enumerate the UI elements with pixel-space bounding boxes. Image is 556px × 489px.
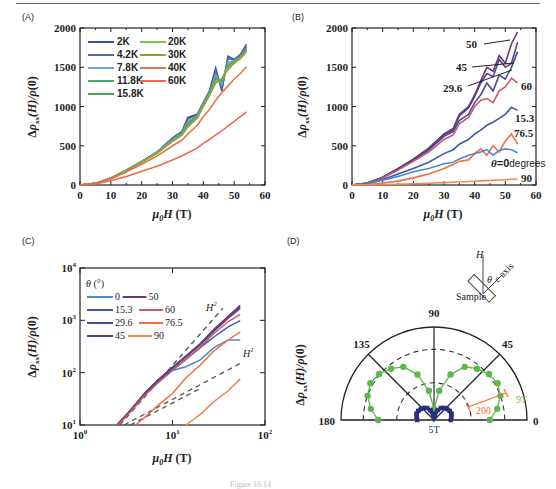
series-line-30K [80, 52, 247, 185]
series-line-15-8K [80, 50, 247, 185]
angle-label: 90 [429, 307, 441, 319]
legend-entry: 4.2K [117, 49, 139, 60]
x-tick-label: 40 [469, 189, 481, 201]
legend-entry: 30K [168, 49, 187, 60]
legend-entry: 60K [168, 75, 187, 86]
x-tick-label: 10 [377, 189, 389, 201]
svg-text:c axis: c axis [492, 260, 516, 284]
legend-entry: 11.8K [117, 75, 144, 86]
legend-entry: 2K [117, 36, 131, 47]
svg-text:50: 50 [466, 38, 478, 50]
plot-frame [80, 268, 265, 425]
legend-entry: 29.6 [115, 317, 133, 328]
y-tick-label: 1000 [326, 101, 349, 113]
y-tick-label: 1500 [54, 61, 77, 73]
panel-a: (A) 01020304050600500100015002000Δρxx(H)… [0, 0, 278, 225]
legend-entry: 45 [115, 330, 125, 341]
legend-entry: 40K [168, 62, 187, 73]
h2-annotation: H2 [205, 300, 217, 313]
series-label-9t: 9T [516, 394, 527, 405]
legend-entry: 0 [115, 291, 120, 302]
svg-text:102: 102 [62, 366, 77, 379]
angle-label: 180 [319, 415, 336, 427]
svg-text:104: 104 [62, 261, 77, 274]
x-tick-label: 20 [408, 189, 420, 201]
x-tick-label: 30 [439, 189, 451, 201]
svg-text:102: 102 [258, 428, 273, 441]
y-tick-label: 2000 [54, 22, 77, 34]
svg-text:60: 60 [521, 80, 533, 92]
svg-text:76.5: 76.5 [514, 127, 534, 139]
x-axis-label: μ0H (T) [151, 207, 191, 223]
legend-entry: 7.8K [117, 62, 139, 73]
y-tick-label: 500 [332, 140, 349, 152]
chart-d: 901354518009T5T200Δρxx(H)/ρ(0)Hθc axisSa… [278, 225, 556, 470]
legend-entry: 50 [149, 291, 159, 302]
y-tick-label: 500 [60, 140, 77, 152]
svg-text:101: 101 [165, 428, 180, 441]
x-axis-label: μ0H (T) [151, 451, 191, 467]
svg-text:Sample: Sample [456, 291, 487, 302]
y-tick-label: 2000 [326, 22, 349, 34]
y-tick-label: 0 [343, 179, 349, 191]
legend-entry: 15.3 [115, 304, 133, 315]
svg-text:29.6: 29.6 [443, 82, 463, 94]
h1-annotation: H1 [242, 346, 254, 359]
sample-orientation-inset: Hθc axisSample [456, 249, 516, 302]
series-line-0 [117, 340, 240, 425]
svg-text:100: 100 [73, 428, 88, 441]
panel-b: (B) 01020304050600500100015002000Δρxx(H)… [278, 0, 556, 225]
svg-text:H: H [475, 249, 484, 260]
legend-entry: 60 [165, 304, 175, 315]
figure-caption: Figure 16.14 [230, 480, 271, 489]
legend-entry: 76.5 [165, 317, 183, 328]
y-axis-label: Δρxx(H)/ρ(0) [25, 316, 41, 378]
series-line-90 [186, 379, 240, 425]
chart-b: 01020304050600500100015002000Δρxx(H)/ρ(0… [278, 0, 556, 225]
y-axis-label: Δρxx(H)/ρ(0) [293, 344, 309, 406]
svg-text:15.3: 15.3 [515, 112, 535, 124]
series-line-20K [80, 51, 247, 185]
panel-d: (D) 901354518009T5T200Δρxx(H)/ρ(0)Hθc ax… [278, 225, 556, 470]
y-tick-label: 0 [71, 179, 77, 191]
x-tick-label: 0 [77, 189, 83, 201]
x-tick-label: 50 [500, 189, 512, 201]
x-tick-label: 60 [531, 189, 543, 201]
angle-label: 0 [533, 415, 539, 427]
angle-label: 45 [502, 338, 513, 350]
y-axis-label: Δρxx(H)/ρ(0) [25, 76, 41, 138]
y-axis-label: Δρxx(H)/ρ(0) [295, 76, 311, 138]
reference-line [130, 388, 200, 425]
chart-a: 01020304050600500100015002000Δρxx(H)/ρ(0… [0, 0, 278, 225]
svg-text:90: 90 [521, 172, 533, 184]
svg-text:45: 45 [456, 61, 468, 73]
legend-entry: 90 [154, 330, 164, 341]
y-tick-label: 1000 [54, 101, 77, 113]
polar-spoke [368, 354, 434, 420]
series-label-5t: 5T [428, 424, 439, 435]
x-tick-label: 50 [229, 189, 241, 201]
series-line-11-8K [80, 49, 247, 185]
y-tick-label: 1500 [326, 61, 349, 73]
legend-entry: 20K [168, 36, 187, 47]
svg-text:103: 103 [62, 313, 77, 326]
x-tick-label: 20 [136, 189, 148, 201]
x-tick-label: 40 [198, 189, 210, 201]
svg-text:200: 200 [476, 405, 491, 416]
legend-entry: 15.8K [117, 88, 144, 99]
series-line-76-5 [136, 332, 241, 425]
svg-text:θ=0degrees: θ=0degrees [491, 157, 545, 169]
x-tick-label: 10 [105, 189, 117, 201]
x-axis-label: μ0H (T) [422, 207, 462, 223]
chart-c: 100101102101102103104Δρxx(H)/ρ(0)μ0H (T)… [0, 225, 278, 470]
panel-c: (C) 100101102101102103104Δρxx(H)/ρ(0)μ0H… [0, 225, 278, 470]
angle-label: 135 [353, 338, 370, 350]
x-tick-label: 60 [260, 189, 272, 201]
x-tick-label: 0 [349, 189, 355, 201]
x-tick-label: 30 [167, 189, 179, 201]
legend-title: θ (°) [86, 278, 104, 290]
